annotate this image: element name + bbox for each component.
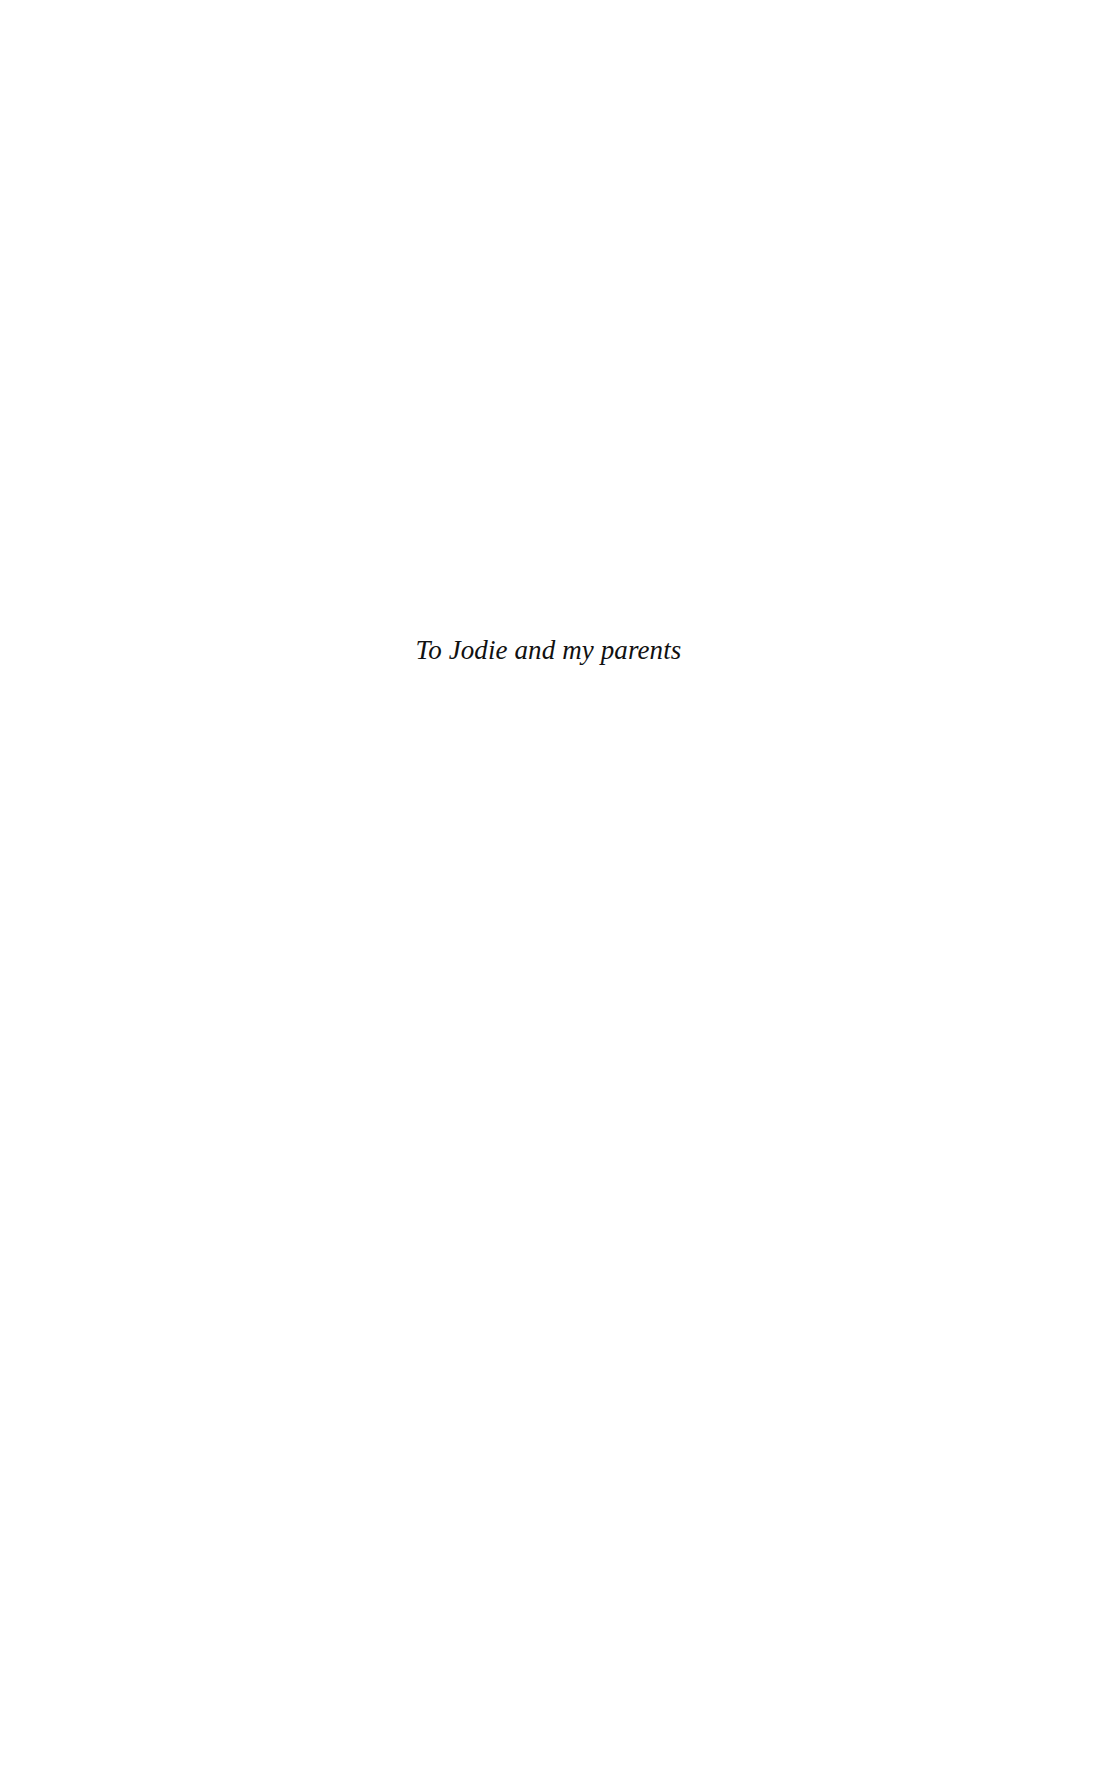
- book-page: To Jodie and my parents: [0, 0, 1097, 1780]
- dedication-text: To Jodie and my parents: [0, 632, 1097, 668]
